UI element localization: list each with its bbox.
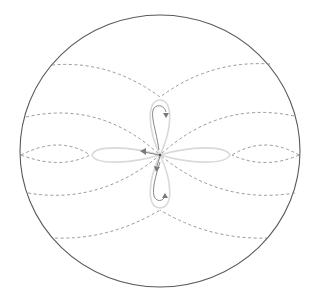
arrow-up-icon — [162, 193, 168, 198]
lobes — [92, 100, 230, 208]
lobe-top — [150, 100, 170, 155]
field-line — [21, 155, 90, 163]
field-line — [232, 145, 299, 155]
field-line — [160, 155, 295, 195]
lobe-left — [92, 148, 160, 162]
boundary-circle — [20, 15, 300, 287]
field-line — [55, 210, 160, 238]
lobe-right — [160, 148, 230, 162]
arrow-down-icon — [163, 113, 169, 118]
field-line — [160, 64, 270, 97]
field-line — [21, 145, 90, 155]
field-line — [26, 113, 160, 155]
field-line — [232, 155, 299, 163]
field-line — [52, 64, 160, 97]
field-diagram — [0, 0, 316, 302]
field-line — [160, 112, 294, 155]
dashed-field-lines — [21, 64, 299, 239]
field-line — [28, 155, 160, 195]
field-line — [160, 210, 268, 238]
center-point — [159, 154, 162, 157]
arrow-left-icon — [140, 148, 146, 155]
